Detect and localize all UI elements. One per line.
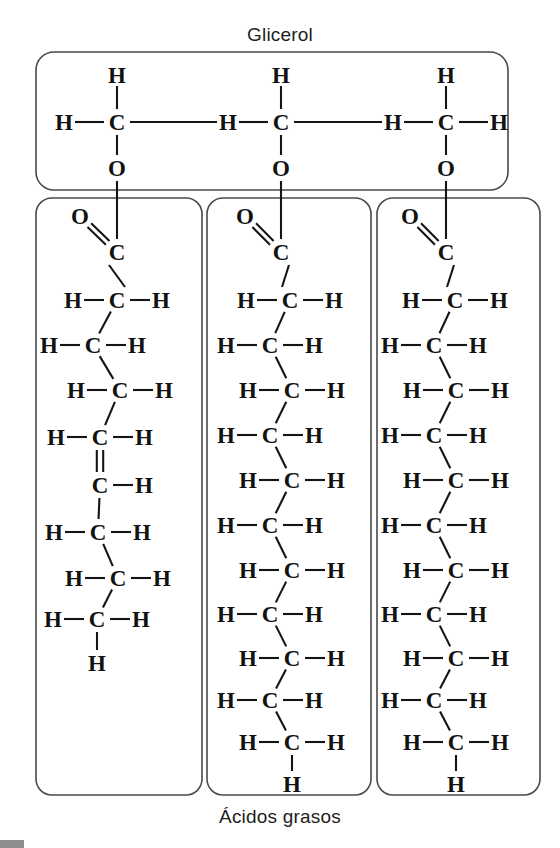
fa3-h-left-1: H [402, 288, 420, 313]
fa2-carbon-8: C [262, 602, 279, 627]
fa3-h-right-2: H [469, 333, 487, 358]
fa1-h-left-8: H [44, 607, 62, 632]
fa2-bond-3-4 [276, 402, 287, 424]
fa2-h-right-3: H [327, 378, 345, 403]
fa2-carbon-9: C [284, 646, 301, 671]
fa3-h-left-3: H [403, 378, 421, 403]
fa2-h-right-9: H [327, 646, 345, 671]
fa2-bond-7-8 [276, 582, 286, 603]
fa3-h-right-9: H [491, 646, 509, 671]
fa3-bond-6-7 [440, 537, 451, 559]
glycerol-h-right-3: H [490, 110, 508, 135]
fa3-h-right-6: H [469, 513, 487, 538]
fa1-bond-carbonyl-C1 [109, 265, 125, 287]
fa2-h-right-11: H [327, 730, 345, 755]
fa2-carbonyl-oxygen: O [236, 204, 254, 229]
fa2-bond-9-10 [276, 670, 286, 689]
fa2-h-left-10: H [217, 688, 235, 713]
fa1-h-right-7: H [153, 566, 171, 591]
fa3-carbonyl-oxygen: O [401, 204, 419, 229]
fa3-bond-8-9 [440, 626, 450, 647]
triglyceride-diagram: CHHOCHHOCHHOHCOCHHCHHCHHCHHCHCHHCHHCHHHC… [0, 0, 560, 848]
fa1-carbon-5: C [92, 473, 109, 498]
fa3-h-right-1: H [490, 288, 508, 313]
fa3-carbon-9: C [448, 646, 465, 671]
fa1-h-right-6: H [133, 520, 151, 545]
fa2-bond-8-9 [276, 626, 286, 647]
fa1-h-left-1: H [64, 288, 82, 313]
fa1-bond-5-6 [99, 498, 100, 519]
fa2-h-right-1: H [325, 288, 343, 313]
fa2-h-left-1: H [237, 288, 255, 313]
fa3-carbonyl-carbon: C [438, 240, 455, 265]
glycerol-oxygen-2: O [272, 156, 290, 181]
fa2-h-left-6: H [217, 513, 235, 538]
fa3-h-right-10: H [469, 688, 487, 713]
fa2-carbon-4: C [262, 423, 279, 448]
fa2-h-left-4: H [217, 423, 235, 448]
fa2-h-right-8: H [305, 602, 323, 627]
fa3-bond-10-11 [440, 712, 450, 731]
fa1-bond-1-2 [99, 311, 111, 333]
fa1-h-right-2: H [128, 333, 146, 358]
glycerol-h-top-3: H [437, 63, 455, 88]
glycerol-h-left-2: H [219, 110, 237, 135]
fa1-carbon-1: C [109, 288, 126, 313]
fa3-h-left-7: H [403, 558, 421, 583]
fa3-bond-7-8 [440, 582, 450, 603]
fa1-carbon-8: C [89, 607, 106, 632]
fa1-h-left-6: H [45, 520, 63, 545]
fa1-h-right-5: H [135, 473, 153, 498]
glycerol-oxygen-3: O [437, 156, 455, 181]
fa3-h-right-7: H [491, 558, 509, 583]
fa3-h-left-4: H [381, 423, 399, 448]
fa1-h-right-4: H [135, 425, 153, 450]
fa3-h-left-5: H [403, 468, 421, 493]
fa2-h-right-10: H [305, 688, 323, 713]
fa3-h-left-6: H [381, 513, 399, 538]
glycerol-carbon-3: C [438, 110, 455, 135]
fa1-carbonyl-oxygen: O [71, 204, 89, 229]
glycerol-h-left-1: H [55, 110, 73, 135]
fa3-carbon-6: C [426, 513, 443, 538]
fa1-carbon-3: C [112, 378, 129, 403]
fa3-h-left-9: H [403, 646, 421, 671]
fa1-carbon-2: C [85, 333, 102, 358]
fa2-h-left-3: H [239, 378, 257, 403]
fa3-h-left-11: H [403, 730, 421, 755]
fa2-h-left-5: H [239, 468, 257, 493]
fa2-h-right-4: H [305, 423, 323, 448]
fa3-bond-3-4 [440, 402, 451, 424]
fa1-carbonyl-carbon: C [109, 240, 126, 265]
fa2-carbon-5: C [284, 468, 301, 493]
atom-layer: CHHOCHHOCHHOHCOCHHCHHCHHCHHCHCHHCHHCHHHC… [40, 63, 509, 797]
fa1-terminal-hydrogen: H [88, 651, 106, 676]
fa3-h-right-11: H [491, 730, 509, 755]
fa2-bond-10-11 [276, 712, 286, 731]
fa3-bond-9-10 [440, 670, 450, 689]
fa2-h-left-9: H [239, 646, 257, 671]
fa3-bond-2-3 [440, 357, 451, 379]
fa2-terminal-hydrogen: H [283, 772, 301, 797]
fa3-h-left-10: H [381, 688, 399, 713]
fa2-bond-4-5 [276, 447, 287, 469]
fa1-bond-3-4 [105, 402, 115, 425]
fa3-bond-carbonyl-C1 [447, 265, 454, 287]
fa3-h-left-8: H [381, 602, 399, 627]
fa3-h-left-2: H [381, 333, 399, 358]
fa2-h-left-8: H [217, 602, 235, 627]
fa2-h-left-7: H [239, 558, 257, 583]
fa3-carbon-1: C [447, 288, 464, 313]
fa1-carbon-7: C [110, 566, 127, 591]
fa1-h-right-1: H [152, 288, 170, 313]
fa1-carbon-4: C [92, 425, 109, 450]
fa3-carbon-8: C [426, 602, 443, 627]
fa1-h-right-8: H [132, 607, 150, 632]
fa2-h-left-2: H [217, 333, 235, 358]
fa1-carbon-6: C [90, 520, 107, 545]
fa3-h-right-8: H [469, 602, 487, 627]
fa2-carbon-2: C [262, 333, 279, 358]
fa3-h-right-5: H [491, 468, 509, 493]
fa3-carbon-4: C [426, 423, 443, 448]
page-title-acidos-grasos: Ácidos grasos [0, 806, 560, 828]
